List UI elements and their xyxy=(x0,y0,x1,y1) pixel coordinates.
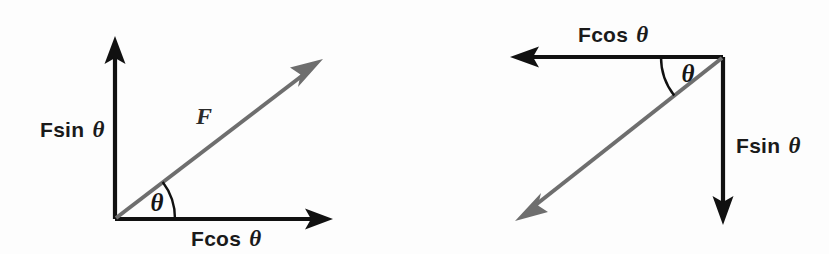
right-diagram-group: Fcosθ Fsinθ θ xyxy=(510,22,801,225)
vector-diagram-svg: Fsinθ Fcosθ F θ xyxy=(0,0,829,254)
right-angle-label: θ xyxy=(682,60,695,87)
left-horizontal-axis-label: Fcosθ xyxy=(191,226,261,251)
left-angle-label: θ xyxy=(151,189,164,216)
right-vertical-axis-arrow xyxy=(713,57,734,225)
left-angle-arc xyxy=(163,182,175,219)
right-horizontal-axis-label: Fcosθ xyxy=(578,22,648,47)
right-vertical-axis-label: Fsinθ xyxy=(736,133,801,158)
left-diagram-group: Fsinθ Fcosθ F θ xyxy=(40,36,333,251)
left-resultant-label: F xyxy=(195,103,212,129)
physics-figure-canvas: Fsinθ Fcosθ F θ xyxy=(0,0,829,254)
left-vertical-axis-arrow xyxy=(105,36,126,219)
left-resultant-vector-arrow xyxy=(116,59,323,218)
left-vertical-axis-label: Fsinθ xyxy=(40,117,105,142)
right-angle-arc xyxy=(661,57,674,96)
